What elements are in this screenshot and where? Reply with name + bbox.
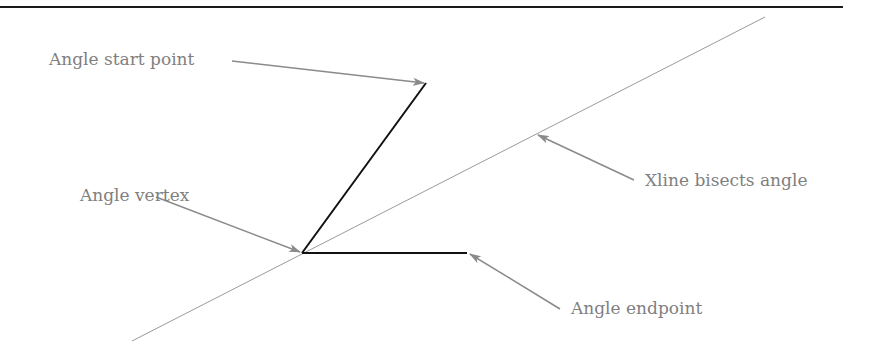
callout-arrow-start-point: [232, 61, 424, 83]
label-xline-bisects-angle: Xline bisects angle: [645, 170, 807, 190]
callout-arrow-endpoint: [470, 254, 560, 309]
callout-arrow-bisects: [538, 135, 634, 180]
label-angle-start-point: Angle start point: [49, 49, 194, 69]
angle-start-line: [302, 83, 426, 253]
label-angle-vertex: Angle vertex: [80, 185, 189, 205]
callout-arrow-vertex: [156, 197, 300, 252]
label-angle-endpoint: Angle endpoint: [571, 298, 702, 318]
